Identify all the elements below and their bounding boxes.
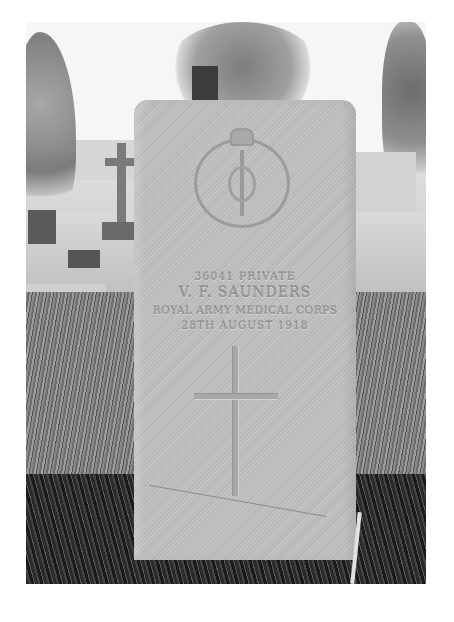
background-cross [117,143,126,223]
background-headstone [68,250,100,268]
soldier-name: V. F. SAUNDERS [134,284,356,300]
serpent-icon [228,166,256,202]
carved-cross-icon [233,346,238,496]
tree-center [168,22,318,112]
post [192,66,218,100]
background-cross-base [102,222,138,240]
service-number-rank: 36041 PRIVATE [134,270,356,283]
background-headstone [28,210,56,244]
photograph: 36041 PRIVATE V. F. SAUNDERS ROYAL ARMY … [26,22,426,584]
regimental-badge-icon [194,128,294,232]
unit: ROYAL ARMY MEDICAL CORPS [134,304,356,316]
headstone: 36041 PRIVATE V. F. SAUNDERS ROYAL ARMY … [134,100,356,560]
crown-icon [230,128,254,146]
carved-cross-arm [194,394,278,399]
building-right [356,152,416,212]
date-of-death: 28TH AUGUST 1918 [134,319,356,331]
